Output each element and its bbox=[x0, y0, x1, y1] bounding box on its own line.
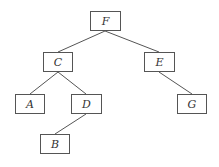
tree-node-c: C bbox=[43, 52, 73, 72]
tree-node-a: A bbox=[15, 94, 45, 114]
node-label: G bbox=[188, 98, 197, 111]
node-label: F bbox=[102, 15, 110, 28]
edge-c-d bbox=[58, 72, 86, 94]
node-label: D bbox=[82, 98, 91, 111]
tree-node-e: E bbox=[144, 52, 175, 72]
edge-c-a bbox=[30, 72, 58, 94]
node-label: A bbox=[26, 98, 34, 111]
edge-f-c bbox=[58, 31, 105, 52]
tree-diagram: FCEADGB bbox=[0, 0, 219, 167]
tree-node-f: F bbox=[90, 11, 121, 31]
edge-d-b bbox=[55, 114, 86, 134]
node-label: E bbox=[155, 56, 163, 69]
tree-node-g: G bbox=[177, 94, 207, 114]
node-label: C bbox=[54, 56, 62, 69]
tree-node-b: B bbox=[40, 134, 70, 154]
edge-f-e bbox=[105, 31, 159, 52]
node-label: B bbox=[51, 138, 59, 151]
tree-node-d: D bbox=[71, 94, 102, 114]
edge-e-g bbox=[159, 72, 192, 94]
